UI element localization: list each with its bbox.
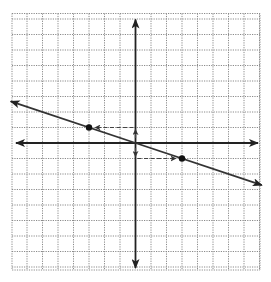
coordinate-plane (0, 0, 271, 282)
point-3--1 (179, 155, 185, 161)
graph-line-right (136, 143, 262, 185)
point--3-1 (86, 124, 92, 130)
coordinate-plane-figure (0, 0, 271, 282)
